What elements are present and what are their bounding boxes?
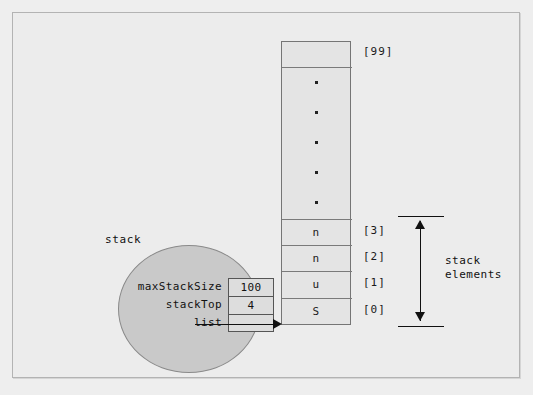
field-label-maxstacksize: maxStackSize <box>106 278 226 296</box>
field-label-list: list <box>106 314 226 332</box>
field-row-stacktop: stackTop <box>58 296 226 314</box>
diagram-canvas: [99] n [3] n [2] u [1] S [0] stack maxSt… <box>0 0 533 395</box>
cell-separator <box>282 67 352 68</box>
stack-elements-bracket <box>398 216 444 328</box>
stack-elements-label: stack elements <box>445 254 502 282</box>
field-value-stacktop: 4 <box>229 297 273 315</box>
array-index-0: [0] <box>363 303 386 316</box>
field-label-stacktop: stackTop <box>106 296 226 314</box>
bracket-cap-top <box>398 216 444 217</box>
arrow-down-icon <box>415 312 425 321</box>
stack-object-label: stack <box>105 233 141 246</box>
field-value-maxstacksize: 100 <box>229 279 273 297</box>
array-index-3: [3] <box>363 224 386 237</box>
array-index-2: [2] <box>363 250 386 263</box>
array-index-99: [99] <box>363 45 394 58</box>
bracket-cap-bottom <box>398 326 444 327</box>
bracket-vertical-line <box>420 221 421 321</box>
field-row-list: list <box>58 314 226 332</box>
figure-frame: [99] n [3] n [2] u [1] S [0] stack maxSt… <box>12 12 520 378</box>
list-pointer-line <box>195 324 280 325</box>
array-cell-3: n <box>281 220 351 246</box>
array-cell-1: u <box>281 272 351 298</box>
stack-elements-label-line1: stack <box>445 254 502 268</box>
stack-elements-label-line2: elements <box>445 268 502 282</box>
array-index-1: [1] <box>363 276 386 289</box>
arrow-up-icon <box>415 220 425 229</box>
list-pointer-arrowhead-icon <box>273 319 282 329</box>
array-cell-0: S <box>281 299 351 325</box>
field-row-maxstacksize: maxStackSize <box>58 278 226 296</box>
array-cell-2: n <box>281 246 351 272</box>
